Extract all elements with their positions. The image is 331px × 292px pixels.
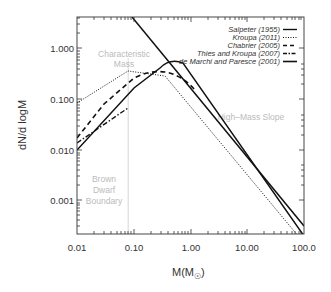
series-thies (77, 108, 128, 143)
annotation-boundary: Boundary (86, 196, 123, 206)
annotation-dwarf: Dwarf (93, 185, 116, 195)
annotation-mass: Mass (114, 59, 134, 69)
y-tick-0.01: 0.010 (50, 145, 74, 156)
x-tick-1: 1.00 (182, 242, 201, 253)
y-tick-1: 1.000 (50, 43, 74, 54)
legend-demarchi: de Marchi and Paresce (2001) (179, 57, 280, 66)
svg-text:M(M☉): M(M☉) (172, 266, 205, 281)
x-tick-0.01: 0.01 (68, 242, 87, 253)
annotation-characteristic: Characteristic (98, 49, 151, 59)
y-tick-0.001: 0.001 (50, 195, 74, 206)
series-chabrier (77, 72, 195, 138)
x-tick-10: 10.00 (235, 242, 259, 253)
series-kroupa (77, 71, 304, 243)
annotation-high-mass-slope: High–Mass Slope (218, 112, 285, 122)
x-tick-0.1: 0.10 (125, 242, 144, 253)
imf-chart: Characteristic Mass High–Mass Slope Brow… (0, 0, 331, 292)
x-tick-100: 100.0 (292, 242, 316, 253)
y-tick-0.1: 0.100 (50, 94, 74, 105)
x-axis-label: M(M☉) (172, 266, 205, 281)
y-axis-label: dN/d logM (16, 100, 28, 150)
legend: Salpeter (1955) Kroupa (2011) Chabrier (… (179, 25, 297, 66)
annotation-brown: Brown (92, 174, 116, 184)
